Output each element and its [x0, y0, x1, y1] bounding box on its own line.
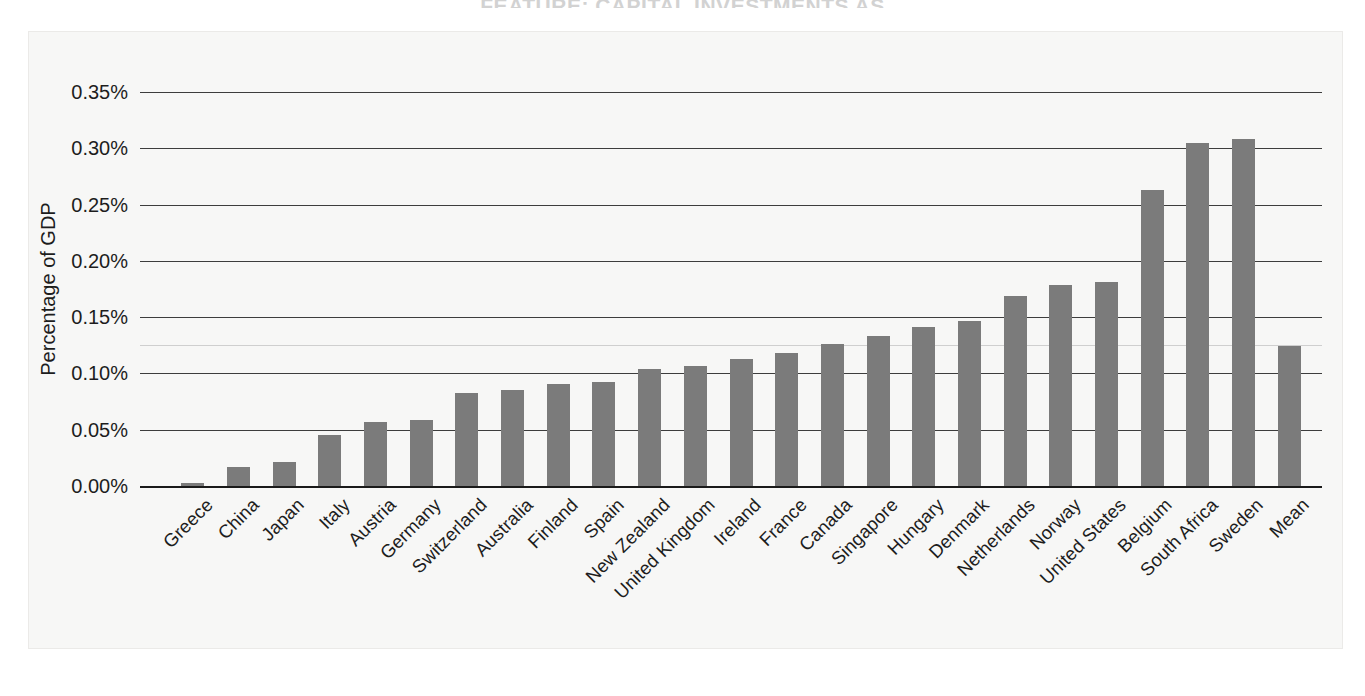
bar [364, 422, 387, 486]
gridline [140, 148, 1322, 149]
x-tick-label: Japan [257, 494, 309, 546]
bar [547, 384, 570, 486]
bar [1141, 190, 1164, 486]
y-tick-label: 0.15% [8, 306, 128, 329]
x-tick-label: Mean [1265, 494, 1314, 543]
bar [1232, 139, 1255, 486]
bar [958, 321, 981, 486]
bar [775, 353, 798, 486]
x-axis-baseline [140, 486, 1322, 488]
x-tick-label: China [213, 494, 263, 544]
y-tick-label: 0.30% [8, 137, 128, 160]
bar [1095, 282, 1118, 486]
bar [455, 393, 478, 486]
bar [318, 435, 341, 486]
gridline [140, 92, 1322, 93]
y-tick-label: 0.00% [8, 475, 128, 498]
bar [684, 366, 707, 486]
bar [410, 420, 433, 486]
bar [1049, 285, 1072, 487]
bar [273, 462, 296, 486]
bar [912, 327, 935, 486]
bar [867, 336, 890, 486]
bar [730, 359, 753, 486]
bar-chart: Percentage of GDP 0.35%0.30%0.25%0.20%0.… [0, 0, 1365, 696]
y-axis-title: Percentage of GDP [37, 202, 60, 375]
x-tick-label: Italy [315, 494, 355, 534]
bar [821, 344, 844, 486]
bar [1186, 143, 1209, 486]
y-tick-label: 0.25% [8, 193, 128, 216]
bar [1004, 296, 1027, 486]
x-tick-label: Ireland [709, 494, 765, 550]
bar [1278, 346, 1301, 486]
plot-area: Percentage of GDP 0.35%0.30%0.25%0.20%0.… [180, 92, 1322, 486]
bar [592, 382, 615, 486]
y-tick-label: 0.05% [8, 418, 128, 441]
bar [501, 390, 524, 486]
y-tick-label: 0.20% [8, 249, 128, 272]
x-tick-label: Greece [158, 494, 217, 553]
bar [638, 369, 661, 486]
bar [227, 467, 250, 486]
y-tick-label: 0.10% [8, 362, 128, 385]
x-tick-label: Finland [524, 494, 583, 553]
y-tick-label: 0.35% [8, 81, 128, 104]
bar [181, 483, 204, 486]
